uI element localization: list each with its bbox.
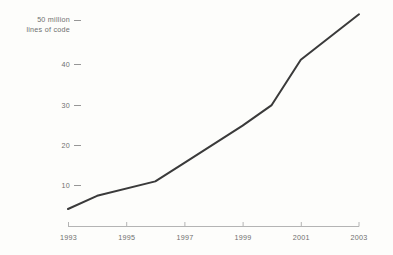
y-tick-label-10: 10: [62, 181, 71, 190]
x-axis-labels: 1993 1995 1997 1999 2001 2003: [60, 233, 368, 242]
y-axis-ticks: [74, 21, 81, 186]
x-axis-ticks: [69, 222, 360, 227]
x-tick-label-1997: 1997: [176, 233, 193, 242]
x-tick-label-1993: 1993: [60, 233, 77, 242]
x-tick-label-2003: 2003: [351, 233, 368, 242]
chart-canvas: 50 million lines of code 40 30 20 10 199…: [0, 0, 393, 255]
x-tick-label-1995: 1995: [118, 233, 135, 242]
y-tick-label-30: 30: [62, 101, 71, 110]
y-axis-caption-line2: lines of code: [26, 25, 70, 34]
y-axis-caption-line1: 50 million: [37, 15, 70, 24]
y-axis-labels: 50 million lines of code 40 30 20 10: [26, 15, 70, 190]
line-chart: 50 million lines of code 40 30 20 10 199…: [0, 0, 393, 255]
data-series-line: [68, 14, 359, 209]
x-tick-label-1999: 1999: [235, 233, 252, 242]
y-tick-label-20: 20: [62, 141, 71, 150]
x-tick-label-2001: 2001: [293, 233, 310, 242]
y-tick-label-40: 40: [62, 60, 71, 69]
